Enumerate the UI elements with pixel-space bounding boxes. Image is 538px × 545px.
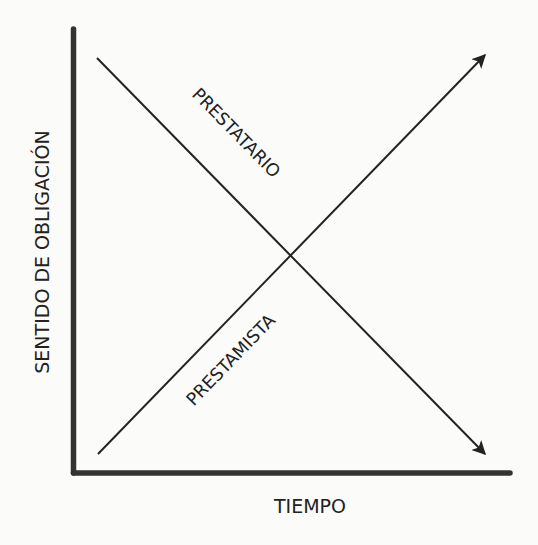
obligation-diagram: PRESTATARIO PRESTAMISTA SENTIDO DE OBLIG… <box>0 0 538 545</box>
y-axis-label: SENTIDO DE OBLIGACIÓN <box>30 130 53 373</box>
prestamista-label: PRESTAMISTA <box>182 310 279 409</box>
x-axis-label: TIEMPO <box>273 495 346 517</box>
